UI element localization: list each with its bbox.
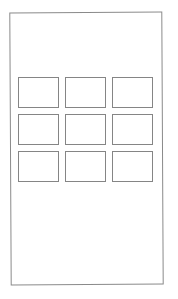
grid-tile-8[interactable] xyxy=(65,151,106,182)
grid-tile-1[interactable] xyxy=(18,77,59,108)
grid-tile-5[interactable] xyxy=(65,114,106,145)
grid-tile-6[interactable] xyxy=(112,114,153,145)
grid-tile-2[interactable] xyxy=(65,77,106,108)
tile-grid xyxy=(18,77,153,182)
grid-tile-3[interactable] xyxy=(112,77,153,108)
grid-tile-7[interactable] xyxy=(18,151,59,182)
grid-tile-4[interactable] xyxy=(18,114,59,145)
grid-tile-9[interactable] xyxy=(112,151,153,182)
